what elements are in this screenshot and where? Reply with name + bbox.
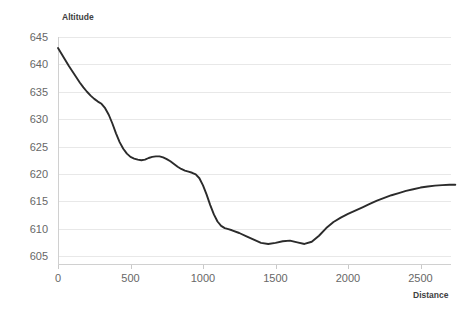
x-tick-labels-group: 05001000150020002500 (55, 272, 433, 284)
x-tick-marks-group (59, 265, 422, 269)
y-tick-label: 625 (30, 141, 48, 153)
x-axis-title: Distance (413, 290, 449, 300)
series-line-0 (58, 48, 455, 244)
y-tick-label: 630 (30, 113, 48, 125)
y-tick-label: 635 (30, 86, 48, 98)
y-tick-label: 615 (30, 195, 48, 207)
data-series-group (58, 48, 455, 244)
y-tick-label: 605 (30, 250, 48, 262)
y-tick-labels-group: 605610615620625630635640645 (30, 31, 48, 262)
x-tick-label: 1500 (263, 272, 287, 284)
x-tick-label: 2500 (408, 272, 432, 284)
y-tick-label: 640 (30, 58, 48, 70)
x-tick-label: 500 (121, 272, 139, 284)
altitude-distance-chart: 605610615620625630635640645 050010001500… (0, 0, 469, 309)
y-axis-title: Altitude (62, 12, 94, 22)
chart-canvas: 605610615620625630635640645 050010001500… (0, 0, 469, 309)
x-tick-label: 0 (55, 272, 61, 284)
y-tick-label: 620 (30, 168, 48, 180)
axis-lines-group (58, 37, 451, 265)
y-tick-label: 645 (30, 31, 48, 43)
y-tick-label: 610 (30, 223, 48, 235)
gridlines-group (58, 38, 451, 257)
x-tick-label: 1000 (191, 272, 215, 284)
x-tick-label: 2000 (336, 272, 360, 284)
